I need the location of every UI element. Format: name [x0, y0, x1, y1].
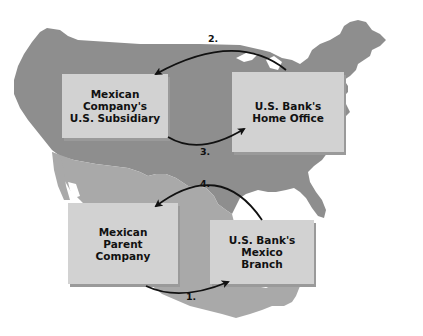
box-label: Mexican Company's U.S. Subsidiary	[62, 88, 168, 124]
box-us-bank-mexico-branch: U.S. Bank's Mexico Branch	[210, 220, 314, 284]
step-label-1: 1.	[186, 291, 196, 302]
step-label-2: 2.	[208, 33, 218, 44]
box-label: Mexican Parent Company	[96, 226, 151, 262]
box-label: U.S. Bank's Mexico Branch	[229, 234, 296, 270]
box-label: U.S. Bank's Home Office	[252, 100, 324, 124]
box-mexican-company-us-subsidiary: Mexican Company's U.S. Subsidiary	[62, 74, 168, 138]
step-label-3: 3.	[200, 146, 210, 157]
map-background	[0, 0, 423, 336]
step-label-4: 4.	[200, 178, 210, 189]
box-mexican-parent-company: Mexican Parent Company	[68, 203, 178, 284]
box-us-bank-home-office: U.S. Bank's Home Office	[232, 72, 344, 152]
